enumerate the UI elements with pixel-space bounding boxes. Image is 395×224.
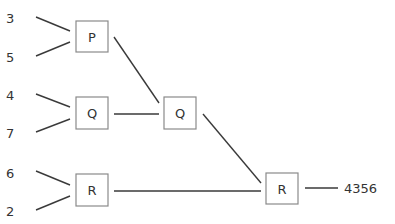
node-label: Q xyxy=(87,106,97,121)
output-value: 4356 xyxy=(344,181,377,196)
edge-4-to-q xyxy=(36,94,70,107)
input-label: 3 xyxy=(6,11,14,26)
edge-3-to-p xyxy=(36,17,70,31)
edge-2-to-r xyxy=(36,196,70,210)
edge-p-to-q2 xyxy=(114,37,159,103)
input-label: 6 xyxy=(6,166,14,181)
edge-q2-to-r2 xyxy=(203,114,261,183)
node-label: R xyxy=(87,183,96,198)
node-label: R xyxy=(277,182,286,197)
edge-7-to-q xyxy=(36,119,70,132)
node-r-first: R xyxy=(76,174,108,206)
input-label: 4 xyxy=(6,88,14,103)
input-label: 7 xyxy=(6,126,14,141)
edge-5-to-p xyxy=(36,42,70,56)
node-q-second: Q xyxy=(164,97,196,129)
edge-6-to-r xyxy=(36,171,70,185)
node-label: P xyxy=(88,30,96,45)
operation-diagram: 3 5 4 7 6 2 P Q R Q R 4356 xyxy=(0,0,395,224)
input-label: 2 xyxy=(6,204,14,219)
input-label: 5 xyxy=(6,50,14,65)
node-p: P xyxy=(76,21,108,52)
node-r-second: R xyxy=(266,173,298,204)
node-label: Q xyxy=(175,106,185,121)
node-q-first: Q xyxy=(76,97,108,129)
